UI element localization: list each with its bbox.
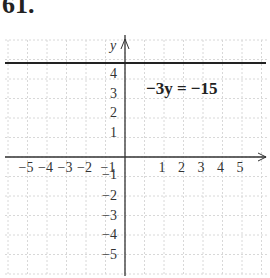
x-tick-labels: −5−4−3−2−112345 bbox=[19, 160, 244, 175]
y-tick-label: −5 bbox=[102, 247, 117, 262]
coordinate-plane: y −3y = −15 −5−4−3−2−112345 4321−1−2−3−4… bbox=[0, 0, 270, 278]
y-tick-label: −1 bbox=[102, 167, 117, 182]
x-tick-label: −4 bbox=[38, 160, 53, 175]
y-tick-label: −3 bbox=[102, 208, 117, 223]
x-tick-label: 3 bbox=[198, 160, 205, 175]
x-tick-label: −5 bbox=[19, 160, 34, 175]
x-tick-label: 2 bbox=[178, 160, 185, 175]
y-tick-label: −4 bbox=[102, 227, 117, 242]
y-tick-label: 2 bbox=[110, 105, 117, 120]
grid bbox=[5, 40, 268, 276]
y-tick-label: 1 bbox=[110, 125, 117, 140]
y-tick-label: −2 bbox=[102, 188, 117, 203]
equation-label: −3y = −15 bbox=[146, 79, 218, 98]
x-tick-label: 5 bbox=[237, 160, 244, 175]
y-tick-label: 4 bbox=[110, 66, 117, 81]
x-tick-label: −3 bbox=[58, 160, 73, 175]
x-tick-label: 4 bbox=[217, 160, 224, 175]
x-tick-label: −2 bbox=[77, 160, 92, 175]
y-axis-label: y bbox=[108, 38, 117, 53]
y-tick-label: 3 bbox=[110, 86, 117, 101]
x-tick-label: 1 bbox=[159, 160, 166, 175]
